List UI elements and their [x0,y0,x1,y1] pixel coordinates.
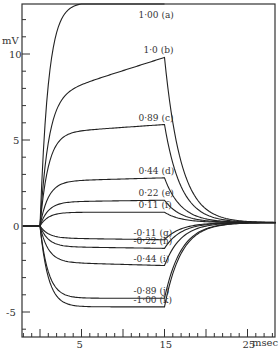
y-axis-unit: mV [2,35,19,46]
svg-text:15: 15 [160,339,173,350]
y-axis: 1050-5 [6,20,30,330]
svg-text:0: 0 [13,221,19,232]
trace-label: -0·44 (i) [134,254,170,264]
svg-text:5: 5 [77,339,83,350]
x-axis-unit: msec [252,337,279,348]
trace-labels: 1·00 (a)1·0 (b)0·89 (c)0·44 (d)0·22 (e)0… [134,10,175,305]
x-axis: 51525 [23,329,272,350]
svg-text:-5: -5 [6,307,16,318]
trace-label: -1·00 (k) [134,295,172,305]
trace-label: 0·44 (d) [139,166,175,176]
trace-label: 0·11 (f) [139,200,172,210]
trace-label: 1·00 (a) [139,10,174,20]
trace-label: 0·22 (e) [139,188,174,198]
svg-text:10: 10 [9,49,22,60]
trace-label: 0·89 (c) [139,113,174,123]
svg-text:5: 5 [13,135,19,146]
trace-label: 1·0 (b) [144,45,174,55]
trace-label: -0·22 (h) [134,236,173,246]
chart: 1050-5 51525 1·00 (a)1·0 (b)0·89 (c)0·44… [0,0,279,350]
